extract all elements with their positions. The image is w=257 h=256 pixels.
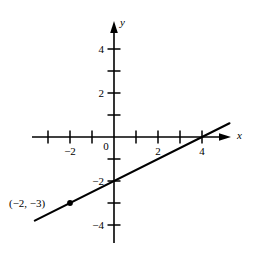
plotted-line bbox=[35, 123, 230, 220]
x-tick-label-2: 2 bbox=[151, 146, 165, 157]
y-tick-label-2: 2 bbox=[90, 88, 104, 99]
coordinate-graph-figure: y x 0 −2 2 4 4 2 −2 −4 (−2, −3) bbox=[0, 0, 257, 256]
y-tick-label-neg-4: −4 bbox=[84, 220, 104, 231]
data-point-marker bbox=[67, 200, 73, 206]
y-axis-label: y bbox=[120, 17, 125, 28]
x-axis-label: x bbox=[237, 130, 242, 141]
y-axis-arrowhead bbox=[110, 21, 118, 33]
y-tick-label-neg-2: −2 bbox=[84, 176, 104, 187]
x-tick-label-4: 4 bbox=[195, 146, 209, 157]
x-axis-arrowhead bbox=[219, 133, 231, 141]
x-tick-label-neg-2: −2 bbox=[60, 146, 80, 157]
point-coordinate-label: (−2, −3) bbox=[9, 198, 45, 209]
origin-label: 0 bbox=[101, 141, 111, 152]
y-tick-label-4: 4 bbox=[90, 44, 104, 55]
graph-canvas bbox=[0, 0, 257, 256]
